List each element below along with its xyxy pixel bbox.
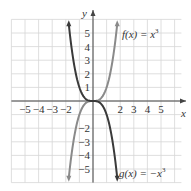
x-tick-label: −4 [33,103,45,115]
x-tick-label: 2 [117,103,123,115]
y-tick-label: 3 [85,54,91,66]
arrowhead-icon [66,176,71,182]
x-tick-label: −5 [19,103,31,115]
y-tick-label: −2 [78,122,90,134]
cubic-functions-plot: −5−4−3−2234554321−2−3−4−5 x y f(x) = x3 … [0,0,191,191]
y-tick-label: −4 [78,149,90,161]
x-tick-label: −3 [46,103,58,115]
y-tick-label: 5 [85,27,91,39]
y-axis-label: y [81,7,87,19]
g-function-label: g(x) = −x3 [119,166,166,180]
y-tick-label: 2 [85,68,91,80]
f-function-label: f(x) = x3 [122,27,159,41]
y-tick-label: −3 [78,136,90,148]
y-tick-label: 1 [85,81,91,93]
y-tick-label: 4 [85,41,91,53]
x-tick-label: 3 [131,103,137,115]
x-tick-label: 4 [145,103,151,115]
axes [11,10,186,183]
x-tick-label: −2 [60,103,72,115]
arrowhead-icon [66,20,71,26]
x-tick-label: 5 [158,103,164,115]
y-tick-label: −5 [78,163,90,175]
x-axis-label: x [180,107,186,119]
arrowhead-icon [115,20,120,26]
